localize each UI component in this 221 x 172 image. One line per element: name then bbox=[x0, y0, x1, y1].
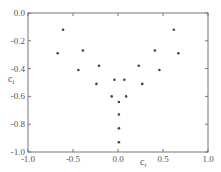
data-points bbox=[56, 28, 179, 143]
scatter-chart: -1.0-0.50.00.51.0 0.0-0.2-0.4-0.6-0.8-1.… bbox=[0, 0, 221, 172]
data-point bbox=[95, 83, 98, 86]
data-point bbox=[141, 83, 144, 86]
data-point bbox=[123, 78, 126, 81]
data-point bbox=[118, 101, 121, 104]
data-point bbox=[118, 127, 121, 130]
data-point bbox=[177, 52, 180, 55]
data-point bbox=[158, 69, 161, 72]
data-point bbox=[56, 52, 59, 55]
data-point bbox=[154, 49, 157, 52]
data-point bbox=[82, 49, 85, 52]
x-axis-label: cr bbox=[140, 156, 147, 169]
data-point bbox=[62, 28, 65, 31]
y-tick-label: -0.4 bbox=[11, 64, 26, 74]
data-point bbox=[98, 65, 101, 68]
data-point bbox=[110, 95, 113, 98]
data-point bbox=[118, 141, 121, 144]
data-point bbox=[125, 95, 128, 98]
y-axis-label-sub: i bbox=[12, 78, 14, 86]
y-axis-label: ci bbox=[8, 73, 14, 86]
data-point bbox=[137, 65, 140, 68]
y-tick-label: -1.0 bbox=[11, 147, 26, 157]
x-axis-label-sub: r bbox=[144, 161, 147, 169]
x-tick-label: 0.5 bbox=[157, 154, 169, 164]
x-axis-ticks: -1.0-0.50.00.51.0 bbox=[21, 13, 214, 164]
x-tick-label: -0.5 bbox=[66, 154, 81, 164]
y-tick-label: -0.6 bbox=[11, 91, 26, 101]
plot-frame bbox=[28, 13, 208, 152]
y-axis-ticks: 0.0-0.2-0.4-0.6-0.8-1.0 bbox=[11, 8, 208, 157]
y-tick-label: 0.0 bbox=[14, 8, 26, 18]
data-point bbox=[173, 28, 176, 31]
y-tick-label: -0.2 bbox=[11, 36, 25, 46]
y-tick-label: -0.8 bbox=[11, 119, 26, 129]
data-point bbox=[77, 69, 80, 72]
data-point bbox=[113, 78, 116, 81]
x-tick-label: 1.0 bbox=[202, 154, 214, 164]
x-tick-label: 0.0 bbox=[112, 154, 124, 164]
data-point bbox=[118, 113, 121, 116]
